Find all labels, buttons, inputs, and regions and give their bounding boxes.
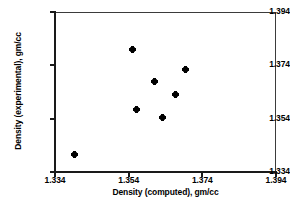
x-tick-label: 1.374 [182,176,222,185]
x-axis-title: Density (computed), gm/cc [55,187,276,197]
data-point [152,79,157,84]
data-point [72,152,77,157]
y-tick-label: 1.394 [242,7,290,16]
y-tick-label: 1.374 [242,60,290,69]
x-tick-label: 1.394 [256,176,290,185]
y-axis-line [54,11,56,173]
plot-area [55,12,276,172]
x-tick-label: 1.354 [109,176,149,185]
data-point [130,47,135,52]
data-point [183,67,188,72]
y-tick-label: 1.354 [242,114,290,123]
scatter-plot-figure: 1.3341.3541.3741.394 1.3341.3541.3741.39… [0,0,290,201]
y-tick-mark [50,11,55,13]
y-axis-title: Density (experimental), gm/cc [13,11,23,171]
data-point [160,115,165,120]
x-tick-label: 1.334 [35,176,75,185]
data-point [173,92,178,97]
y-tick-mark [50,118,55,120]
y-tick-mark [50,64,55,66]
data-point [134,107,139,112]
